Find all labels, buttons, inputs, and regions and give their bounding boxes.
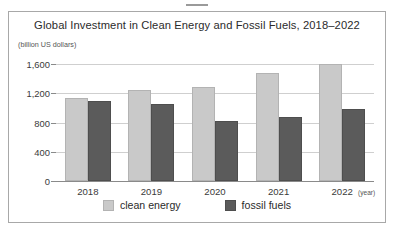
ytick-label-1200: 1,200 <box>27 88 50 99</box>
gridline-0-baseline: 0 <box>56 181 374 182</box>
y-axis-unit-label: (billion US dollars) <box>18 40 76 49</box>
bar-clean-energy-2021[interactable] <box>256 73 279 181</box>
bar-group-2021: 2021 <box>247 64 311 181</box>
bar-group-2020: 2020 <box>183 64 247 181</box>
legend-label-fossil-fuels: fossil fuels <box>242 199 291 211</box>
ytick-dash-0 <box>51 181 56 182</box>
chart-frame: Global Investment in Clean Energy and Fo… <box>8 11 386 223</box>
bar-group-2018: 2018 <box>56 64 120 181</box>
bar-clean-energy-2020[interactable] <box>192 87 215 181</box>
bar-fossil-fuels-2020[interactable] <box>215 121 238 181</box>
bar-fossil-fuels-2022[interactable] <box>342 109 365 181</box>
bar-group-2019: 2019 <box>120 64 184 181</box>
legend-swatch-fossil-fuels <box>225 200 236 211</box>
bar-group-2022: 2022 (year) <box>310 64 374 181</box>
legend-label-clean-energy: clean energy <box>120 199 181 211</box>
xtick-label-2022: 2022 <box>332 186 353 197</box>
legend-item-fossil-fuels[interactable]: fossil fuels <box>225 199 291 211</box>
redaction-dash-mark <box>186 4 208 6</box>
bar-groups: 2018 2019 2020 2021 2022 (ye <box>56 64 374 181</box>
chart-legend: clean energy fossil fuels <box>9 199 385 211</box>
ytick-label-1600: 1,600 <box>27 59 50 70</box>
legend-swatch-clean-energy <box>103 200 114 211</box>
ytick-label-800: 800 <box>34 117 50 128</box>
xtick-label-2019: 2019 <box>141 186 162 197</box>
x-axis-unit-label: (year) <box>358 189 375 196</box>
ytick-label-400: 400 <box>34 146 50 157</box>
bar-clean-energy-2019[interactable] <box>128 90 151 181</box>
ytick-label-0: 0 <box>45 176 50 187</box>
chart-title: Global Investment in Clean Energy and Fo… <box>9 19 385 31</box>
legend-item-clean-energy[interactable]: clean energy <box>103 199 181 211</box>
xtick-label-2018: 2018 <box>77 186 98 197</box>
xtick-label-2021: 2021 <box>268 186 289 197</box>
bar-clean-energy-2018[interactable] <box>65 98 88 181</box>
plot-area: 1,600 1,200 800 400 0 2018 <box>56 64 374 181</box>
bar-fossil-fuels-2021[interactable] <box>279 117 302 181</box>
bar-clean-energy-2022[interactable] <box>319 64 342 181</box>
bar-fossil-fuels-2019[interactable] <box>151 104 174 182</box>
xtick-label-2020: 2020 <box>204 186 225 197</box>
bar-fossil-fuels-2018[interactable] <box>88 101 111 181</box>
